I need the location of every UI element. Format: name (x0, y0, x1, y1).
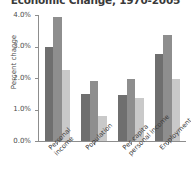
bar-chart: Economic Change, 1970-2005 Percent chang… (0, 0, 191, 196)
x-category-label: Personalincome (47, 126, 78, 157)
y-tick-mark (35, 47, 38, 48)
x-axis-category-labels: PersonalincomePopulationPer capitaperson… (0, 0, 191, 196)
x-category-label: Population (84, 121, 114, 151)
x-category-label-line1: Population (84, 121, 114, 151)
y-tick-mark (35, 141, 38, 142)
y-tick-mark (35, 15, 38, 16)
y-tick-mark (35, 78, 38, 79)
y-tick-mark (35, 110, 38, 111)
